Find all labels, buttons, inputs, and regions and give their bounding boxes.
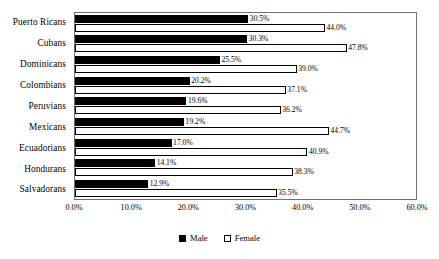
bar-row: 44.0% (75, 24, 416, 32)
bar-row: 44.7% (75, 127, 416, 135)
bar-row: 35.5% (75, 189, 416, 197)
bar-group: 19.6%36.2% (75, 97, 416, 115)
category-label: Dominicans (20, 59, 70, 69)
bar-group: 25.5%39.0% (75, 56, 416, 74)
bar-value-label: 35.5% (277, 189, 298, 197)
bar-value-label: 20.2% (190, 77, 211, 85)
bar-female (75, 44, 347, 52)
bar-group: 12.9%35.5% (75, 180, 416, 198)
bar-row: 40.9% (75, 148, 416, 156)
bar-row: 12.9% (75, 180, 416, 188)
bar-group: 17.0%40.9% (75, 138, 416, 156)
bar-group: 20.2%37.1% (75, 76, 416, 94)
bar-male (75, 77, 190, 85)
bar-value-label: 39.0% (297, 65, 318, 73)
bar-row: 14.1% (75, 159, 416, 167)
bar-value-label: 47.8% (347, 44, 368, 52)
bar-female (75, 86, 286, 94)
x-tick-label: 50.0% (349, 203, 370, 213)
bar-value-label: 44.0% (325, 24, 346, 32)
bar-male (75, 159, 155, 167)
category-label: Hondurans (24, 164, 70, 174)
bar-row: 30.5% (75, 15, 416, 23)
category-axis-labels: Puerto RicansCubansDominicansColombiansP… (0, 12, 70, 200)
bar-female (75, 106, 281, 114)
bar-value-label: 38.3% (293, 168, 314, 176)
legend-label: Male (190, 234, 208, 243)
category-label: Puerto Ricans (13, 17, 70, 27)
legend-swatch-icon (179, 235, 186, 242)
bar-group: 19.2%44.7% (75, 118, 416, 136)
bar-female (75, 148, 307, 156)
x-tick-label: 0.0% (65, 203, 82, 213)
bar-value-label: 19.2% (184, 118, 205, 126)
legend-label: Female (235, 234, 260, 243)
category-label: Cubans (38, 38, 71, 48)
bar-group: 14.1%38.3% (75, 159, 416, 177)
x-tick-label: 40.0% (292, 203, 313, 213)
bar-row: 39.0% (75, 65, 416, 73)
x-tick-label: 20.0% (178, 203, 199, 213)
bar-male (75, 118, 184, 126)
bar-row: 36.2% (75, 106, 416, 114)
bar-group: 30.5%44.0% (75, 14, 416, 32)
bar-value-label: 44.7% (329, 127, 350, 135)
bar-row: 47.8% (75, 44, 416, 52)
category-label: Ecuadorians (19, 143, 70, 153)
bar-male (75, 180, 148, 188)
bar-row: 30.3% (75, 35, 416, 43)
bar-male (75, 15, 248, 23)
bar-value-label: 37.1% (286, 86, 307, 94)
legend-item-male[interactable]: Male (179, 234, 208, 243)
bar-value-label: 25.5% (220, 56, 241, 64)
bar-row: 17.0% (75, 139, 416, 147)
category-label: Salvadorans (19, 184, 70, 194)
bar-row: 20.2% (75, 77, 416, 85)
bar-value-label: 36.2% (281, 106, 302, 114)
bar-row: 19.6% (75, 97, 416, 105)
legend-swatch-icon (224, 235, 231, 242)
bar-male (75, 35, 247, 43)
bar-row: 37.1% (75, 86, 416, 94)
category-label: Colombians (20, 80, 70, 90)
x-axis-tick-labels: 0.0%10.0%20.0%30.0%40.0%50.0%60.0% (74, 201, 417, 217)
x-tick-label: 10.0% (121, 203, 142, 213)
bar-value-label: 19.6% (186, 97, 207, 105)
bar-chart: Puerto RicansCubansDominicansColombiansP… (0, 0, 439, 259)
bar-value-label: 14.1% (155, 159, 176, 167)
bar-value-label: 40.9% (307, 148, 328, 156)
bar-value-label: 12.9% (148, 180, 169, 188)
bar-group: 30.3%47.8% (75, 35, 416, 53)
legend-item-female[interactable]: Female (224, 234, 260, 243)
bar-female (75, 127, 329, 135)
bar-groups: 30.5%44.0%30.3%47.8%25.5%39.0%20.2%37.1%… (75, 13, 416, 199)
bar-female (75, 189, 277, 197)
bar-male (75, 97, 186, 105)
bar-male (75, 139, 172, 147)
bar-row: 25.5% (75, 56, 416, 64)
bar-male (75, 56, 220, 64)
category-label: Mexicans (29, 122, 70, 132)
x-tick-label: 30.0% (235, 203, 256, 213)
bar-female (75, 24, 325, 32)
x-tick-label: 60.0% (406, 203, 427, 213)
bar-value-label: 30.3% (247, 35, 268, 43)
bar-female (75, 65, 297, 73)
bar-value-label: 17.0% (172, 139, 193, 147)
category-label: Peruvians (28, 101, 70, 111)
bar-row: 38.3% (75, 168, 416, 176)
bar-value-label: 30.5% (248, 15, 269, 23)
bar-female (75, 168, 293, 176)
plot-area: 30.5%44.0%30.3%47.8%25.5%39.0%20.2%37.1%… (74, 12, 417, 200)
chart-legend: MaleFemale (0, 234, 439, 243)
bar-row: 19.2% (75, 118, 416, 126)
